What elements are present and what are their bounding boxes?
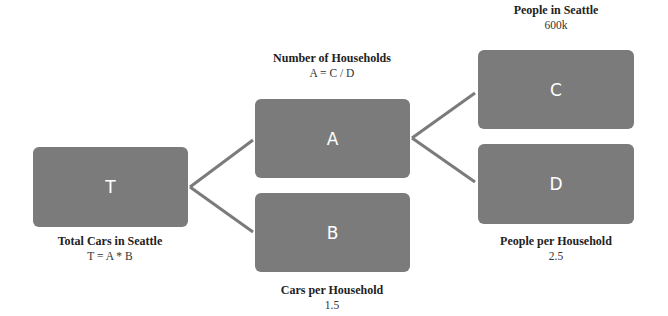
node-t-value: T = A * B [10, 249, 210, 264]
edge-t-a [190, 140, 253, 187]
node-d-letter: D [549, 174, 562, 194]
node-a-value: A = C / D [232, 66, 432, 81]
node-b-value: 1.5 [232, 298, 432, 313]
node-b-title: Cars per Household [232, 283, 432, 298]
node-b-box: B [255, 193, 410, 272]
node-c-title: People in Seattle [456, 3, 656, 18]
node-c-box: C [478, 50, 634, 129]
node-c-value: 600k [456, 18, 656, 33]
node-c-letter: C [550, 80, 562, 100]
edge-t-b [190, 187, 253, 232]
node-t-letter: T [105, 177, 115, 197]
node-b-letter: B [327, 223, 339, 243]
edge-a-c [412, 93, 475, 138]
node-d-value: 2.5 [456, 249, 656, 264]
node-t-title: Total Cars in Seattle [10, 234, 210, 249]
node-b-label: Cars per Household 1.5 [232, 283, 432, 313]
node-d-title: People per Household [456, 234, 656, 249]
node-t-label: Total Cars in Seattle T = A * B [10, 234, 210, 264]
node-a-letter: A [327, 129, 339, 149]
node-a-title: Number of Households [232, 51, 432, 66]
node-c-label: People in Seattle 600k [456, 3, 656, 33]
node-a-box: A [255, 99, 410, 178]
node-a-label: Number of Households A = C / D [232, 51, 432, 81]
node-d-label: People per Household 2.5 [456, 234, 656, 264]
node-d-box: D [478, 144, 634, 224]
edge-a-d [412, 138, 475, 182]
node-t-box: T [33, 147, 188, 227]
